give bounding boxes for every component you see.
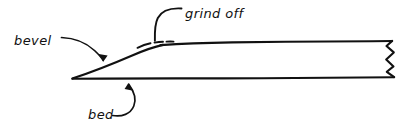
- bevel-label: bevel: [14, 33, 52, 48]
- blade-bevel-diagram: bevel grind off bed: [0, 0, 418, 132]
- grind-off-leader: [155, 8, 182, 40]
- bevel-leader-arrow: [62, 38, 108, 62]
- diagram-canvas: bevel grind off bed: [0, 0, 418, 132]
- bed-line: [73, 77, 395, 79]
- break-line: [386, 41, 394, 77]
- bevel-face: [72, 45, 163, 79]
- top-face-line: [161, 41, 393, 45]
- grind-off-label: grind off: [185, 6, 246, 21]
- bed-leader-arrow: [113, 83, 135, 116]
- bed-label: bed: [88, 107, 114, 122]
